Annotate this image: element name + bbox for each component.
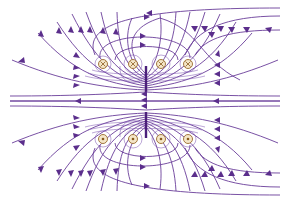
conductor-cross-icon [129, 60, 138, 69]
conductor-dot-icon [129, 135, 138, 144]
conductor-cross-icon [99, 60, 108, 69]
conductor-dot-icon [157, 135, 166, 144]
conductor-cross-icon [157, 60, 166, 69]
magnetic-field-diagram [0, 0, 289, 197]
conductor-dot-icon [184, 135, 193, 144]
conductor-cross-icon [184, 60, 193, 69]
conductor-dot-icon [99, 135, 108, 144]
